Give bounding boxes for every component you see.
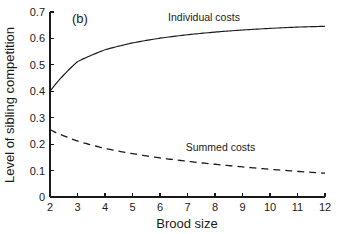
x-tick-label: 6 bbox=[157, 201, 163, 213]
y-tick-label: 0.7 bbox=[30, 6, 45, 18]
panel-label: (b) bbox=[72, 11, 88, 26]
y-tick-label: 0 bbox=[39, 191, 45, 203]
y-axis-title: Level of sibling competition bbox=[2, 27, 17, 183]
x-tick-label: 10 bbox=[264, 201, 276, 213]
y-tick-label: 0.2 bbox=[30, 138, 45, 150]
y-tick-label: 0.3 bbox=[30, 112, 45, 124]
y-tick-label: 0.5 bbox=[30, 59, 45, 71]
figure-panel-b: 00.10.20.30.40.50.60.723456789101112 Bro… bbox=[0, 0, 340, 234]
x-tick-label: 11 bbox=[292, 201, 303, 213]
axes bbox=[50, 12, 325, 197]
tick-marks bbox=[50, 12, 325, 197]
series-label-individual-costs: Individual costs bbox=[168, 11, 240, 23]
x-tick-label: 2 bbox=[47, 201, 53, 213]
y-tick-label: 0.4 bbox=[30, 85, 45, 97]
x-tick-label: 9 bbox=[239, 201, 245, 213]
series-label-summed-costs: Summed costs bbox=[186, 141, 255, 153]
tick-labels: 00.10.20.30.40.50.60.723456789101112 bbox=[30, 6, 331, 213]
series-curve-individual-costs bbox=[50, 26, 325, 91]
x-tick-label: 3 bbox=[74, 201, 80, 213]
x-tick-label: 8 bbox=[212, 201, 218, 213]
x-tick-label: 4 bbox=[102, 201, 108, 213]
y-tick-label: 0.1 bbox=[30, 165, 45, 177]
x-tick-label: 7 bbox=[184, 201, 190, 213]
chart-canvas: 00.10.20.30.40.50.60.723456789101112 Bro… bbox=[0, 0, 340, 234]
x-tick-label: 5 bbox=[129, 201, 135, 213]
y-tick-label: 0.6 bbox=[30, 32, 45, 44]
x-axis-title: Brood size bbox=[156, 216, 217, 231]
x-tick-label: 12 bbox=[319, 201, 331, 213]
